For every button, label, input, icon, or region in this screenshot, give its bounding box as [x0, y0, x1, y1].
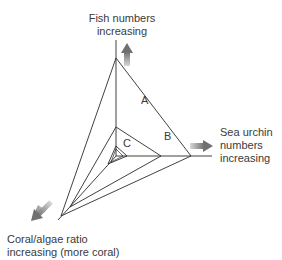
fish-axis-label: Fish numbers increasing [72, 12, 172, 38]
axes [58, 40, 212, 220]
coral-axis [58, 156, 116, 220]
coral-axis-label: Coral/algae ratio increasing (more coral… [7, 233, 119, 259]
triangle-b [70, 127, 161, 207]
triangle-c-label: C [123, 137, 131, 150]
arrow-up-icon [121, 43, 133, 66]
triangle-a-label: A [141, 94, 148, 107]
triangle-b-label: B [164, 130, 171, 143]
arrow-right-icon [190, 140, 213, 152]
arrow-down-left-icon [31, 202, 51, 221]
urchin-axis-label: Sea urchin numbers increasing [220, 126, 273, 165]
